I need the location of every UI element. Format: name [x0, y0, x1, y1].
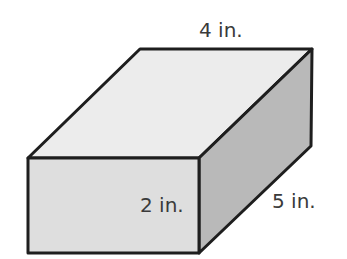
width-label: 5 in. — [272, 191, 316, 211]
length-label: 4 in. — [199, 20, 243, 40]
prism-diagram: 4 in. 2 in. 5 in. — [0, 0, 347, 259]
prism-drawing — [0, 0, 347, 259]
height-label: 2 in. — [140, 195, 184, 215]
